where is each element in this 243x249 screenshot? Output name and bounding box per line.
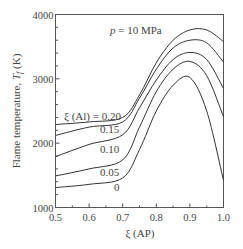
series-label-0.05: 0.05 [100,166,120,178]
x-axis-label: ξ (AP) [125,227,154,240]
x-tick-label: 0.7 [116,212,129,223]
y-tick-label: 4000 [33,10,54,21]
curves [56,29,224,188]
x-tick-label: 0.6 [83,212,96,223]
x-tick-label: 1.0 [217,212,230,223]
x-tick-label: 0.9 [183,212,196,223]
series-label-0.15: 0.15 [100,123,120,135]
y-tick-label: 3000 [33,74,54,85]
y-tick-label: 1000 [33,203,54,214]
series-label-0.20: ξ (Al) = 0.20 [64,110,121,123]
tick-labels: 0.50.60.70.80.91.01000200030004000 [33,10,231,223]
series-label-0: 0 [114,181,120,193]
chart: 0.50.60.70.80.91.01000200030004000 p = 1… [0,0,243,249]
y-axis-label: Flame temperature, Tf (K) [10,53,24,168]
y-tick-label: 2000 [33,138,54,149]
series-label-0.10: 0.10 [100,143,120,155]
curve-al-0.10 [56,52,224,156]
x-tick-label: 0.8 [150,212,163,223]
pressure-annotation: p = 10 MPa [109,24,162,36]
